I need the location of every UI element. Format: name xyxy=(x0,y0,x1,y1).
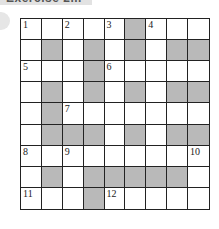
exercise-number-badge xyxy=(0,12,10,30)
crossword-blocked-cell xyxy=(167,40,188,61)
crossword-blocked-cell xyxy=(125,19,146,40)
crossword-cell[interactable]: 9 xyxy=(63,146,84,167)
crossword-blocked-cell xyxy=(42,125,63,146)
crossword-blocked-cell xyxy=(146,167,167,188)
crossword-cell[interactable]: 4 xyxy=(146,19,167,40)
clue-number: 6 xyxy=(107,61,112,72)
crossword-blocked-cell xyxy=(84,82,105,103)
crossword-cell[interactable] xyxy=(42,61,63,82)
clue-number: 7 xyxy=(65,103,70,114)
crossword-blocked-cell xyxy=(105,167,126,188)
crossword-blocked-cell xyxy=(84,40,105,61)
crossword-blocked-cell xyxy=(167,82,188,103)
crossword-blocked-cell xyxy=(84,61,105,82)
crossword-cell[interactable] xyxy=(42,146,63,167)
crossword-cell[interactable] xyxy=(105,82,126,103)
crossword-cell[interactable] xyxy=(125,103,146,124)
crossword-cell[interactable]: 10 xyxy=(188,146,209,167)
crossword-cell[interactable] xyxy=(63,82,84,103)
clue-number: 11 xyxy=(23,188,33,199)
clue-number: 8 xyxy=(23,146,28,157)
crossword-cell[interactable] xyxy=(125,61,146,82)
crossword-blocked-cell xyxy=(125,40,146,61)
crossword-cell[interactable] xyxy=(63,61,84,82)
clue-number: 5 xyxy=(23,61,28,72)
crossword-cell[interactable] xyxy=(21,82,42,103)
crossword-blocked-cell xyxy=(42,40,63,61)
crossword-cell[interactable] xyxy=(167,61,188,82)
exercise-title: Exercise 2... xyxy=(6,0,82,5)
crossword-blocked-cell xyxy=(125,82,146,103)
crossword-cell[interactable] xyxy=(63,188,84,209)
crossword-blocked-cell xyxy=(84,167,105,188)
crossword-blocked-cell xyxy=(84,125,105,146)
crossword-blocked-cell xyxy=(125,167,146,188)
crossword-cell[interactable] xyxy=(105,103,126,124)
crossword-cell[interactable] xyxy=(21,167,42,188)
crossword-cell[interactable] xyxy=(188,103,209,124)
crossword-blocked-cell xyxy=(84,188,105,209)
crossword-blocked-cell xyxy=(188,82,209,103)
crossword-cell[interactable]: 3 xyxy=(105,19,126,40)
clue-number: 10 xyxy=(190,146,200,157)
crossword-cell[interactable] xyxy=(146,82,167,103)
crossword-cell[interactable] xyxy=(21,103,42,124)
crossword-cell[interactable] xyxy=(63,40,84,61)
crossword-cell[interactable] xyxy=(21,125,42,146)
clue-number: 2 xyxy=(65,19,70,30)
crossword-blocked-cell xyxy=(42,103,63,124)
crossword-blocked-cell xyxy=(42,82,63,103)
crossword-cell[interactable] xyxy=(188,19,209,40)
crossword-cell[interactable]: 8 xyxy=(21,146,42,167)
clue-number: 3 xyxy=(107,19,112,30)
crossword-blocked-cell xyxy=(42,167,63,188)
crossword-cell[interactable] xyxy=(105,40,126,61)
crossword-cell[interactable] xyxy=(84,146,105,167)
crossword-blocked-cell xyxy=(63,125,84,146)
crossword-cell[interactable] xyxy=(188,61,209,82)
exercise-header-banner: Exercise 2... xyxy=(0,0,92,5)
crossword-cell[interactable]: 6 xyxy=(105,61,126,82)
crossword-cell[interactable] xyxy=(84,103,105,124)
crossword-blocked-cell xyxy=(188,40,209,61)
crossword-blocked-cell xyxy=(167,167,188,188)
crossword-blocked-cell xyxy=(167,125,188,146)
crossword-cell[interactable] xyxy=(167,188,188,209)
crossword-cell[interactable] xyxy=(146,125,167,146)
crossword-blocked-cell xyxy=(125,125,146,146)
clue-number: 4 xyxy=(148,19,153,30)
crossword-cell[interactable] xyxy=(167,19,188,40)
crossword-cell[interactable]: 7 xyxy=(63,103,84,124)
crossword-cell[interactable] xyxy=(42,188,63,209)
crossword-cell[interactable] xyxy=(63,167,84,188)
crossword-cell[interactable] xyxy=(146,103,167,124)
crossword-cell[interactable] xyxy=(84,19,105,40)
crossword-cell[interactable] xyxy=(42,19,63,40)
crossword-cell[interactable] xyxy=(125,188,146,209)
crossword-cell[interactable] xyxy=(167,103,188,124)
crossword-blocked-cell xyxy=(188,125,209,146)
crossword-cell[interactable] xyxy=(125,146,146,167)
crossword-cell[interactable] xyxy=(105,125,126,146)
crossword-cell[interactable] xyxy=(21,40,42,61)
crossword-cell[interactable]: 1 xyxy=(21,19,42,40)
crossword-cell[interactable]: 5 xyxy=(21,61,42,82)
clue-number: 1 xyxy=(23,19,28,30)
crossword-cell[interactable] xyxy=(146,61,167,82)
crossword-cell[interactable] xyxy=(188,167,209,188)
crossword-grid: 123456789101112 xyxy=(20,18,210,210)
crossword-cell[interactable]: 12 xyxy=(105,188,126,209)
crossword-cell[interactable]: 11 xyxy=(21,188,42,209)
crossword-cell[interactable]: 2 xyxy=(63,19,84,40)
crossword-cell[interactable] xyxy=(146,40,167,61)
clue-number: 12 xyxy=(107,188,117,199)
clue-number: 9 xyxy=(65,146,70,157)
crossword-cell[interactable] xyxy=(146,146,167,167)
crossword-cell[interactable] xyxy=(167,146,188,167)
crossword-cell[interactable] xyxy=(146,188,167,209)
crossword-cell[interactable] xyxy=(188,188,209,209)
crossword-cell[interactable] xyxy=(105,146,126,167)
